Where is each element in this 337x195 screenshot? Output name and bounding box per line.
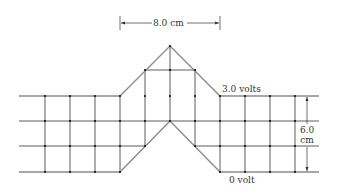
upper-voltage-label: 3.0 volts <box>222 84 261 94</box>
diagram-canvas <box>0 0 337 195</box>
upper-conductor <box>19 46 319 96</box>
height-label-value: 6.0 <box>300 125 314 135</box>
conductors <box>19 46 319 172</box>
width-label: 8.0 cm <box>153 18 184 28</box>
lower-voltage-label: 0 volt <box>229 175 255 185</box>
lower-conductor <box>19 121 319 172</box>
grid-lines <box>19 46 319 172</box>
height-label-unit: cm <box>300 135 314 145</box>
